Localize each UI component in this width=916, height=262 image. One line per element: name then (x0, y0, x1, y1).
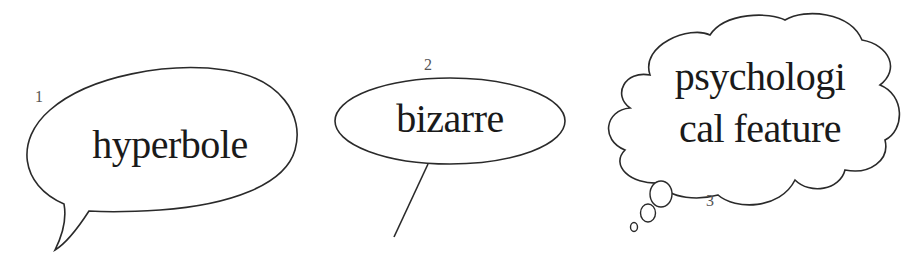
callout-number-2: 2 (424, 56, 432, 74)
callout-text-2: bizarre (370, 96, 530, 142)
callout-text-3-line1: psychologi (660, 54, 860, 100)
callout-text-1: hyperbole (70, 122, 270, 168)
pointer-line-2 (394, 164, 428, 237)
thought-bubble-medium (641, 204, 656, 222)
thought-bubble-small (631, 223, 638, 232)
thought-bubble-large (650, 181, 672, 207)
callout-text-3-line2: cal feature (660, 106, 860, 152)
callout-number-3: 3 (706, 192, 714, 210)
callout-number-1: 1 (35, 88, 43, 106)
